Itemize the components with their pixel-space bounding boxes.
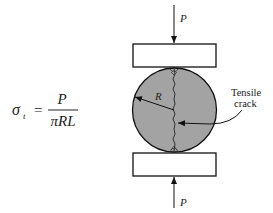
bottom-loading-plate: [133, 153, 216, 176]
top-loading-plate: [133, 44, 216, 67]
formula-denominator: πRL: [50, 113, 75, 129]
stress-formula: σ t = P πRL: [12, 91, 78, 129]
formula-sigma: σ: [12, 101, 21, 118]
top-load-label: P: [179, 12, 187, 24]
radius-label: R: [154, 90, 162, 102]
crack-label-line2: crack: [234, 98, 257, 109]
formula-numerator: P: [56, 91, 66, 107]
specimen-disc: [133, 68, 217, 152]
brazilian-test-diagram: σ t = P πRL P R P Tensile crack: [0, 0, 273, 213]
formula-subscript: t: [23, 111, 26, 121]
crack-label-line1: Tensile: [231, 87, 262, 98]
bottom-load-label: P: [179, 196, 187, 208]
formula-equals: =: [34, 102, 42, 118]
